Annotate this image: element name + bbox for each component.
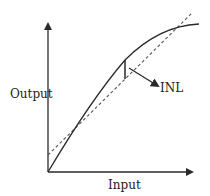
inl-diagram: Output Input INL (0, 0, 210, 196)
inl-label: INL (160, 81, 183, 95)
annotation-arrow (129, 68, 158, 86)
actual-curve (48, 24, 199, 172)
x-axis-label: Input (108, 178, 141, 192)
y-axis-label: Output (10, 87, 53, 101)
